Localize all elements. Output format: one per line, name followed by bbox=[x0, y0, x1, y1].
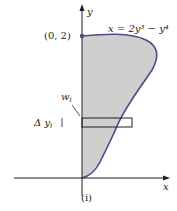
point-label: (0, 2) bbox=[44, 31, 71, 41]
strip-width-label: wi bbox=[61, 92, 72, 104]
strip-width-main: w bbox=[61, 91, 70, 102]
figure-caption: (i) bbox=[81, 193, 92, 203]
equation-label: x = 2y³ − y⁴ bbox=[108, 24, 169, 34]
strip-width-sub: i bbox=[70, 96, 72, 104]
shaded-region bbox=[82, 34, 157, 178]
y-axis-label: y bbox=[87, 7, 93, 17]
strip-height-main: Δ y bbox=[34, 117, 50, 128]
x-axis-label: x bbox=[163, 182, 169, 192]
y-axis-arrow-icon bbox=[80, 4, 85, 11]
width-pointer bbox=[72, 105, 80, 116]
strip-height-sub: i bbox=[50, 122, 52, 130]
point-marker bbox=[80, 34, 84, 38]
strip-height-label: Δ yi bbox=[34, 118, 52, 130]
region-diagram: y x (0, 2) x = 2y³ − y⁴ wi Δ yi (i) bbox=[0, 0, 177, 211]
x-axis-arrow-icon bbox=[163, 176, 170, 181]
